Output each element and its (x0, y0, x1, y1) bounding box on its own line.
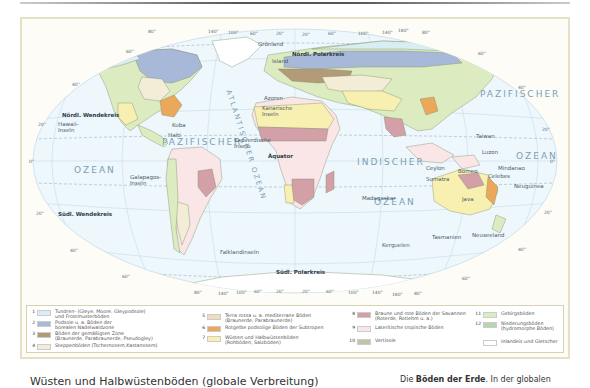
ocean-label-indian: INDISCHER (357, 157, 425, 167)
place-mindanao: Mindanao (498, 166, 525, 172)
place-kanarische-inseln: Kanarische Inseln (262, 106, 302, 117)
legend-swatch-podsol (37, 321, 51, 327)
place-neuseeland: Neuseeland (472, 233, 492, 239)
deg-bottom-3: 60° (254, 289, 262, 294)
legend-num: 10 (349, 338, 357, 343)
legend-item-7: 7 Wüsten und Halbwüstenböden(Rohböden, S… (199, 335, 298, 346)
place-taiwan: Taiwan (476, 134, 495, 140)
legend-label-2: (hydromorphe Böden) (501, 326, 554, 331)
deg-bottom-9: 180° (392, 292, 403, 297)
legend-label-2: borealen Nadelwaldzone (55, 325, 114, 330)
caption-prefix: Die (400, 375, 416, 384)
legend-swatch-ice (483, 340, 497, 346)
deg-bottom-6: 60° (326, 289, 334, 294)
place-luzon: Luzon (482, 150, 498, 156)
deg-top-3: 60° (250, 31, 258, 36)
legend-num: 3 (29, 331, 37, 336)
place-borneo: Borneo (458, 169, 478, 175)
legend-num: 1 (29, 309, 37, 314)
legend-item-6: 6 Rotgelbe podsolige Böden der Subtropen (199, 325, 324, 332)
deg-top-0: 80° (148, 29, 156, 34)
map-figure: PAZIFISCHER OZEAN PAZIFISCHER OZEAN INDI… (20, 17, 570, 359)
legend-swatch-terra-rossa (207, 314, 221, 320)
legend-label-2: (Braunerde, Parabraunerde) (225, 318, 311, 323)
label-south-polar-circle: Südl. Polarkreis (276, 270, 325, 276)
body-text-cutoff: Wüsten und Halbwüstenböden (globale Verb… (30, 375, 319, 388)
place-madagaskar: Madagaskar (362, 196, 395, 202)
map-graphic (22, 19, 568, 301)
place-groenland: Grönland (258, 42, 283, 48)
deg-bottom-10: 80° (414, 291, 422, 296)
legend-swatch-mountain (483, 312, 497, 318)
deg-right-6: 60° (462, 276, 470, 281)
deg-bottom-5: 20° (302, 289, 310, 294)
place-island: Island (272, 59, 288, 65)
legend-label: Steppenböden (Tschernosem,Kastanosem) (55, 343, 157, 348)
deg-left-0: 60° (126, 49, 134, 54)
legend-swatch-tundra (37, 310, 51, 316)
place-tasmanien: Tasmanien (432, 235, 461, 241)
deg-top-10: 80° (422, 30, 430, 35)
deg-right-4: 20° (544, 210, 552, 215)
place-sumatra: Sumatra (426, 177, 450, 183)
legend-item-10: 10 Vertisole (349, 338, 396, 345)
legend-item-5: 5 Terra rossa u. a. mediterrane Böden(Br… (199, 313, 311, 324)
legend-swatch-steppe (37, 344, 51, 350)
label-north-tropic: Nördl. Wendekreis (62, 113, 119, 119)
place-java: Java (462, 197, 474, 203)
legend-label-2: (Rohböden, Salzböden) (225, 340, 298, 345)
place-kapverdische-inseln: Kapverdische Inseln (234, 138, 274, 149)
deg-top-9: 180° (398, 28, 409, 33)
legend-label-2: und Frostmusterböden (55, 314, 145, 319)
legend-label: Lateritische tropische Böden (375, 325, 444, 330)
deg-top-2: 100° (228, 30, 239, 35)
legend-swatch-subtropic (207, 326, 221, 332)
legend-num: 6 (199, 325, 207, 330)
legend-num: 5 (199, 313, 207, 318)
ocean-label-pacific-east: PAZIFISCHER (480, 89, 560, 99)
place-galapagos: Galapagos-Inseln (130, 175, 158, 186)
legend-label: Gebirgsböden (501, 311, 535, 316)
legend-item-3: 3 Böden der gemäßigten Zone(Braunerde, P… (29, 331, 153, 342)
caption-rest: . In der globalen (486, 375, 551, 384)
caption-title: Böden der Erde (416, 375, 486, 384)
deg-left-3: 0° (29, 159, 34, 164)
place-kuba: Kuba (172, 123, 186, 129)
legend-swatch-laterite (357, 326, 371, 332)
deg-left-5: 40° (70, 248, 78, 253)
legend-label: Vertisole (375, 338, 396, 343)
place-kerguelen: Kerguelen (382, 243, 410, 249)
place-hawaii: Hawaii-Inseln (58, 122, 80, 133)
legend-swatch-vertisol (357, 339, 371, 345)
deg-left-2: 20° (38, 122, 46, 127)
deg-right-3: 0° (550, 159, 555, 164)
deg-right-2: 20° (542, 127, 550, 132)
legend-item-11: 11 Gebirgsböden (475, 311, 535, 318)
legend-num: 9 (349, 325, 357, 330)
deg-right-0: 60° (478, 51, 486, 56)
legend-num: 12 (475, 321, 483, 326)
place-azoren: Azoren (264, 96, 283, 102)
label-equator: Äquator (268, 154, 293, 160)
deg-bottom-4: 20° (276, 289, 284, 294)
deg-top-8: 140° (382, 30, 393, 35)
deg-right-5: 40° (518, 247, 526, 252)
place-falklandinseln: Falklandinseln (220, 250, 259, 256)
deg-top-1: 140° (208, 29, 219, 34)
label-south-tropic: Südl. Wendekreis (58, 212, 112, 218)
legend-label: Inlandeis und Gletscher (501, 339, 558, 344)
legend-num: 8 (349, 311, 357, 316)
legend-item-2: 2 Podsole u. a. Böden derborealen Nadelw… (29, 320, 114, 331)
deg-bottom-8: 140° (372, 290, 383, 295)
deg-left-1: 40° (72, 82, 80, 87)
figure-caption: Die Böden der Erde. In der globalen (400, 375, 551, 384)
deg-top-6: 60° (328, 31, 336, 36)
legend-swatch-lowland (483, 322, 497, 328)
place-ceylon: Ceylon (426, 166, 445, 172)
legend-label-2: (Braunerde, Parabraunerde, Pseudogley) (55, 336, 153, 341)
top-rule (20, 2, 570, 4)
ocean-label-pacific-west: PAZIFISCHER (162, 137, 242, 147)
deg-bottom-2: 100° (236, 290, 247, 295)
legend-item-12: 12 Niederungsböden(hydromorphe Böden) (475, 321, 554, 332)
legend-label: Rotgelbe podsolige Böden der Subtropen (225, 325, 324, 330)
